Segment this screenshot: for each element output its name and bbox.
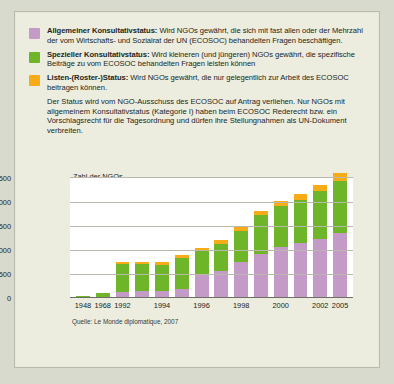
bar-segment [234,231,248,262]
stacked-bar[interactable] [234,227,248,299]
plot-area: 05001000150020002500 [70,178,353,298]
legend-title-special: Spezieller Konsultativstatus: [47,50,149,59]
legend-swatch-general [29,28,40,39]
stacked-bar[interactable] [333,173,347,298]
bar-column[interactable] [231,178,251,298]
bar-column[interactable] [291,178,311,298]
stacked-bar[interactable] [116,262,130,298]
bar-segment [333,233,347,298]
gridline-2000 [70,202,353,203]
infographic-card: Allgemeiner Konsultativstatus: Wird NGOs… [14,11,380,368]
bar-segment [214,244,228,272]
stacked-bar[interactable] [155,262,169,298]
x-tick-label: 1994 [152,301,172,310]
stacked-bar[interactable] [294,194,308,298]
bar-column[interactable] [211,178,231,298]
legend-text-roster: Listen-(Roster-)Status: Wird NGOs gewähr… [47,73,367,92]
gridline-0 [70,297,353,298]
bar-segment [195,275,209,298]
x-tick-label: 1948 [73,301,93,310]
gridline-1500 [70,226,353,227]
bar-column[interactable] [172,178,192,298]
x-tick-label [211,301,231,310]
bar-column[interactable] [113,178,133,298]
legend-text-special: Spezieller Konsultativstatus: Wird klein… [47,50,367,69]
x-tick-label: 2000 [271,301,291,310]
stacked-bar[interactable] [175,255,189,298]
legend-swatch-special [29,52,40,63]
bar-segment [254,254,268,298]
stacked-bar[interactable] [135,262,149,298]
bar-column[interactable] [152,178,172,298]
legend-note: Der Status wird vom NGO-Ausschuss des EC… [47,97,367,135]
y-tick-2500: 2500 [0,174,11,183]
x-tick-label [132,301,152,310]
bar-column[interactable] [310,178,330,298]
bar-column[interactable] [192,178,212,298]
bar-segment [294,243,308,298]
y-tick-500: 500 [0,270,11,279]
bar-segment [234,262,248,298]
bar-segment [274,247,288,298]
legend-title-roster: Listen-(Roster-)Status: [47,73,128,82]
gridline-1000 [70,250,353,251]
x-tick-label: 2002 [310,301,330,310]
bar-column[interactable] [93,178,113,298]
bar-group [70,178,353,298]
legend: Allgemeiner Konsultativstatus: Wird NGOs… [29,26,367,135]
bar-column[interactable] [271,178,291,298]
y-tick-2000: 2000 [0,198,11,207]
bar-segment [195,251,209,275]
legend-title-general: Allgemeiner Konsultativstatus: [47,26,157,35]
x-tick-label [172,301,192,310]
legend-swatch-roster [29,75,40,86]
bar-column[interactable] [251,178,271,298]
gridline-500 [70,274,353,275]
legend-item-general: Allgemeiner Konsultativstatus: Wird NGOs… [29,26,367,45]
bar-column[interactable] [73,178,93,298]
x-tick-label: 1996 [192,301,212,310]
chart: Zahl der NGOs 05001000150020002500 19481… [15,172,381,369]
bar-column[interactable] [330,178,350,298]
x-tick-label: 1992 [113,301,133,310]
legend-item-roster: Listen-(Roster-)Status: Wird NGOs gewähr… [29,73,367,92]
infographic-root: Allgemeiner Konsultativstatus: Wird NGOs… [0,0,394,384]
x-tick-label: 1968 [93,301,113,310]
x-tick-label [251,301,271,310]
legend-text-general: Allgemeiner Konsultativstatus: Wird NGOs… [47,26,367,45]
bar-segment [254,215,268,253]
bar-segment [214,271,228,298]
bar-segment [313,191,327,239]
x-tick-label: 2005 [330,301,350,310]
bar-column[interactable] [132,178,152,298]
gridline-2500 [70,177,353,178]
stacked-bar[interactable] [254,211,268,298]
stacked-bar[interactable] [214,240,228,298]
source-note: Quelle: Le Monde diplomatique, 2007 [72,318,178,325]
bar-segment [155,265,169,291]
bar-segment [135,264,149,291]
x-axis-labels: 194819681992199419961998200020022005 [70,301,353,310]
y-tick-0: 0 [0,294,11,303]
x-tick-label [291,301,311,310]
y-tick-1500: 1500 [0,222,11,231]
legend-item-special: Spezieller Konsultativstatus: Wird klein… [29,50,367,69]
y-tick-1000: 1000 [0,246,11,255]
bar-segment [116,264,130,291]
x-tick-label: 1998 [231,301,251,310]
bar-segment [313,239,327,298]
bar-segment [294,200,308,243]
